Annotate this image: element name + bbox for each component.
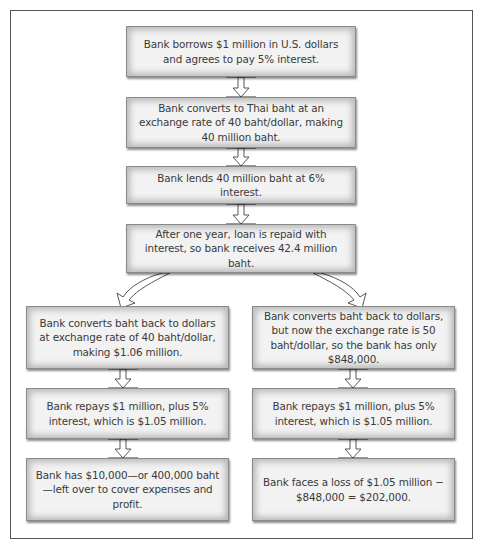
step-text: Bank repays $1 million, plus 5% interest… [35,399,220,428]
step-repaid: After one year, loan is repaid with inte… [126,224,356,273]
right-step-result: Bank faces a loss of $1.05 million − $84… [252,458,455,521]
right-step-repay: Bank repays $1 million, plus 5% interest… [252,388,455,439]
step-text: Bank converts baht back to dollars, but … [261,309,446,367]
step-lend: Bank lends 40 million baht at 6% interes… [126,166,356,204]
step-text: Bank borrows $1 million in U.S. dollars … [135,37,347,66]
left-step-repay: Bank repays $1 million, plus 5% interest… [26,388,229,439]
step-text: Bank lends 40 million baht at 6% interes… [135,171,347,200]
right-step-convert-back: Bank converts baht back to dollars, but … [252,306,455,369]
step-borrow: Bank borrows $1 million in U.S. dollars … [126,26,356,77]
step-text: Bank converts baht back to dollars at ex… [35,316,220,360]
step-text: After one year, loan is repaid with inte… [135,227,347,271]
step-text: Bank has $10,000—or 400,000 baht—left ov… [35,468,220,512]
step-text: Bank repays $1 million, plus 5% interest… [261,399,446,428]
left-step-result: Bank has $10,000—or 400,000 baht—left ov… [26,458,229,521]
left-step-convert-back: Bank converts baht back to dollars at ex… [26,306,229,369]
step-convert: Bank converts to Thai baht at an exchang… [126,97,356,148]
step-text: Bank faces a loss of $1.05 million − $84… [261,475,446,504]
step-text: Bank converts to Thai baht at an exchang… [135,101,347,145]
